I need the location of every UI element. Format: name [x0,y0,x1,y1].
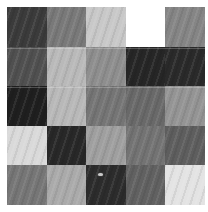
grid-cell [86,7,126,47]
tile-texture [47,126,87,166]
grid-cell [7,47,47,87]
tile-texture [86,126,126,166]
grid-cell [47,165,87,205]
tile-texture [7,47,47,87]
grid-cell [47,47,87,87]
grid-cell [86,47,126,87]
tile-texture [7,126,47,166]
grid-cell [86,86,126,126]
tile-texture [165,165,205,205]
tile-texture [86,47,126,87]
tile-texture [86,165,126,205]
row-seam-line [47,87,87,88]
tile-texture [165,7,205,47]
tile-texture [86,86,126,126]
row-seam-line [126,48,166,49]
speck-artifact-marker [98,173,103,176]
grid-cell [86,165,126,205]
grid-cell [7,165,47,205]
tile-texture [126,126,166,166]
row-seam-line [7,87,47,88]
grid-cell [47,86,87,126]
tile-texture [47,86,87,126]
tile-texture [7,7,47,47]
grid-cell [47,7,87,47]
tile-texture [126,165,166,205]
grid-cell [165,165,205,205]
grid-cell [126,86,166,126]
grid-cell [126,126,166,166]
grid-cell [7,7,47,47]
row-seam-line [165,87,205,88]
tile-texture [165,126,205,166]
tile-texture [47,165,87,205]
row-seam-line [86,87,126,88]
figure-canvas [0,0,208,212]
row-seam-line [165,48,205,49]
grid-cell [165,47,205,87]
grid-cell [165,86,205,126]
tile-texture [7,86,47,126]
row-seam-line [86,48,126,49]
grid-cell [165,126,205,166]
tile-texture [126,47,166,87]
grid-cell [126,47,166,87]
tile-grid [7,7,205,205]
grid-cell [47,126,87,166]
tile-texture [7,165,47,205]
grid-cell [165,7,205,47]
grid-cell [7,126,47,166]
grid-cell [126,165,166,205]
tile-texture [165,86,205,126]
grid-cell-blank [126,7,166,47]
tile-texture [165,47,205,87]
row-seam-line [7,48,47,49]
tile-texture [86,7,126,47]
row-seam-line [126,87,166,88]
grid-cell [7,86,47,126]
tile-texture [47,47,87,87]
tile-texture [126,86,166,126]
row-seam-line [47,48,87,49]
grid-cell [86,126,126,166]
tile-texture [47,7,87,47]
